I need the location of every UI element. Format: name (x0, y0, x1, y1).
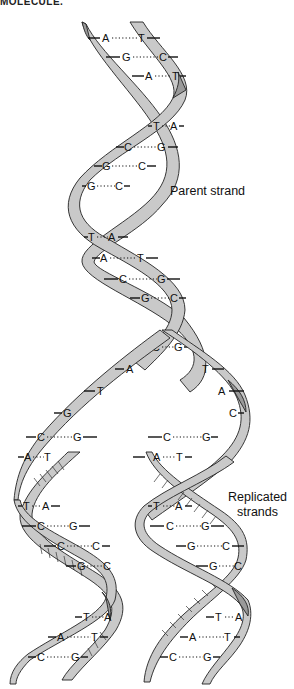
svg-text:T: T (172, 70, 179, 82)
svg-text:G: G (122, 51, 131, 63)
parent-strand-1 (82, 22, 206, 392)
svg-text:C: C (37, 520, 45, 532)
svg-text:A: A (100, 252, 108, 264)
svg-text:C: C (124, 141, 132, 153)
base-pair-row: T A (18, 500, 60, 512)
svg-text:A: A (104, 611, 112, 623)
svg-text:C: C (37, 651, 45, 663)
svg-text:A: A (189, 631, 197, 643)
base-pair-row: G C (94, 160, 156, 172)
base-pair-row: G C (176, 540, 244, 552)
svg-text:T: T (97, 385, 104, 397)
replication-fork: A T G T A C C G C G (14, 330, 250, 520)
svg-text:C: C (163, 431, 171, 443)
svg-text:C: C (159, 51, 167, 63)
svg-text:T: T (215, 611, 222, 623)
fork-left-strand (14, 330, 170, 500)
svg-text:A: A (175, 500, 183, 512)
svg-text:G: G (87, 180, 96, 192)
svg-text:G: G (157, 273, 166, 285)
svg-text:G: G (209, 560, 218, 572)
svg-text:T: T (153, 120, 160, 132)
svg-text:G: G (202, 431, 211, 443)
svg-text:C: C (222, 540, 230, 552)
svg-text:A: A (102, 32, 110, 44)
fork-base-pair-right: C G (148, 431, 218, 443)
svg-text:C: C (234, 560, 242, 572)
svg-text:C: C (170, 292, 178, 304)
daughter-helix-right: A T T A C G G (133, 451, 251, 684)
replicated-label-line2: strands (228, 505, 287, 520)
replicated-strands-label: Replicated strands (228, 490, 287, 520)
svg-text:T: T (23, 500, 30, 512)
svg-text:G: G (141, 292, 150, 304)
svg-text:G: G (157, 141, 166, 153)
svg-text:G: G (187, 540, 196, 552)
svg-text:G: G (71, 651, 80, 663)
svg-text:G: G (63, 407, 72, 419)
svg-text:T: T (137, 252, 144, 264)
svg-text:A: A (170, 120, 178, 132)
base-pair-row: A T (180, 631, 240, 643)
svg-text:C: C (37, 431, 45, 443)
svg-text:A: A (218, 385, 226, 397)
svg-text:A: A (57, 631, 65, 643)
svg-text:A: A (42, 500, 50, 512)
svg-text:A: A (153, 451, 161, 463)
fork-base-pair-left: C G (26, 431, 97, 443)
svg-text:C: C (119, 273, 127, 285)
base-pair-row: G C (82, 180, 130, 192)
svg-text:G: G (201, 520, 210, 532)
parent-strand-label: Parent strand (170, 184, 245, 199)
svg-text:A: A (145, 70, 153, 82)
svg-text:C: C (138, 160, 146, 172)
daughter-helix-left: A T T A C G C C (10, 451, 123, 684)
dna-replication-diagram: A T G C A T T A C (0, 0, 294, 689)
svg-text:G: G (203, 651, 212, 663)
base-pair-row: T A (206, 611, 243, 623)
svg-text:T: T (138, 32, 145, 44)
base-pair-row: C G (28, 651, 88, 663)
svg-text:T: T (202, 363, 209, 375)
svg-text:A: A (126, 363, 134, 375)
svg-text:A: A (108, 231, 116, 243)
svg-text:T: T (224, 631, 231, 643)
svg-text:T: T (176, 451, 183, 463)
base-pair-row: C G (150, 520, 224, 532)
base-pair-row: C G (160, 651, 220, 663)
base-pair-row: A T (132, 70, 186, 82)
svg-text:C: C (169, 651, 177, 663)
svg-text:C: C (92, 540, 100, 552)
svg-text:C: C (229, 407, 237, 419)
replicated-label-line1: Replicated (228, 490, 287, 505)
svg-text:C: C (103, 560, 111, 572)
svg-text:T: T (44, 451, 51, 463)
svg-text:G: G (102, 160, 111, 172)
parent-helix (68, 22, 206, 392)
base-pair-row: A T (133, 451, 192, 463)
svg-text:T: T (88, 231, 95, 243)
svg-text:C: C (57, 540, 65, 552)
svg-text:T: T (153, 500, 160, 512)
svg-text:G: G (77, 560, 86, 572)
svg-text:C: C (166, 520, 174, 532)
svg-text:A: A (235, 611, 243, 623)
svg-text:T: T (83, 611, 90, 623)
svg-text:G: G (73, 431, 82, 443)
svg-text:T: T (91, 631, 98, 643)
svg-text:G: G (69, 520, 78, 532)
svg-text:C: C (115, 180, 123, 192)
svg-text:A: A (24, 451, 32, 463)
